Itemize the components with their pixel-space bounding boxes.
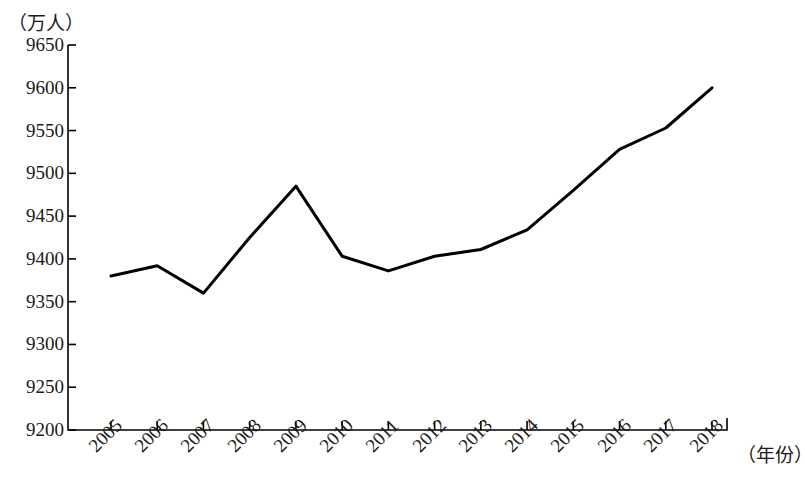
x-axis-tick-label: 2010: [316, 415, 357, 456]
x-axis-tick-label: 2015: [547, 415, 588, 456]
x-axis-tick-label: 2016: [594, 415, 635, 456]
x-axis-unit-label: （年份）: [737, 440, 805, 467]
x-axis-tick-label: 2012: [409, 415, 450, 456]
x-axis-tick-label: 2017: [640, 415, 681, 456]
x-axis-tick-label: 2006: [131, 415, 172, 456]
x-axis-tick-label: 2007: [177, 415, 218, 456]
x-axis-tick-label: 2018: [686, 415, 727, 456]
x-axis-tick-label: 2009: [270, 415, 311, 456]
x-axis-tick-label: 2005: [85, 415, 126, 456]
x-axis-tick-label: 2008: [224, 415, 265, 456]
x-axis-tick-label: 2011: [362, 416, 403, 457]
x-axis-tick-label: 2014: [501, 415, 542, 456]
x-axis-tick-label: 2013: [455, 415, 496, 456]
